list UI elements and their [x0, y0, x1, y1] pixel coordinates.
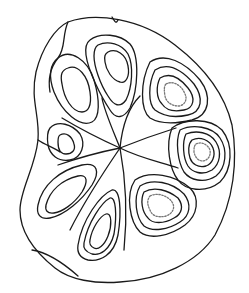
- lobe-lower-left: [38, 164, 97, 218]
- contour-plot: [0, 0, 249, 293]
- nodal-lines: [58, 96, 178, 250]
- lobe-upper-middle: [86, 35, 137, 117]
- lobe-lower-middle: [78, 190, 120, 260]
- lobe-lower-right: [130, 175, 197, 237]
- contour-figure: [0, 0, 249, 293]
- lobe-left: [47, 124, 82, 161]
- lobe-upper-left: [51, 54, 99, 123]
- lobe-right: [169, 121, 230, 190]
- boundary-outline: [20, 17, 235, 282]
- lobe-upper-right: [143, 58, 208, 123]
